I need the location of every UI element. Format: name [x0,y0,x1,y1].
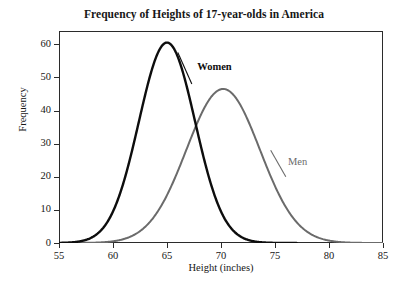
y-tick-mark [54,77,59,78]
x-tick-label: 85 [363,251,403,262]
x-tick-label: 75 [255,251,295,262]
y-tick-mark [54,210,59,211]
x-tick-label: 80 [309,251,349,262]
y-tick-label: 10 [13,204,51,215]
x-tick-mark [329,243,330,248]
y-tick-label: 20 [13,171,51,182]
series-label-women: Women [197,61,231,72]
y-tick-label: 0 [13,238,51,249]
series-label-men: Men [288,156,307,167]
chart-title: Frequency of Heights of 17-year-olds in … [0,8,408,20]
women-curve [59,43,297,243]
y-tick-mark [54,144,59,145]
men-leader-line [271,150,286,177]
x-tick-mark [221,243,222,248]
x-axis-title: Height (inches) [59,262,383,273]
x-tick-mark [59,243,60,248]
x-tick-mark [383,243,384,248]
x-tick-mark [167,243,168,248]
y-tick-mark [54,44,59,45]
y-tick-mark [54,111,59,112]
x-tick-label: 60 [93,251,133,262]
chart-page: Frequency of Heights of 17-year-olds in … [0,0,408,297]
y-axis-title: Frequency [17,70,28,150]
x-tick-mark [275,243,276,248]
y-tick-label: 60 [13,39,51,50]
y-tick-mark [54,177,59,178]
x-tick-mark [113,243,114,248]
x-tick-label: 70 [201,251,241,262]
x-tick-label: 65 [147,251,187,262]
x-tick-label: 55 [39,251,79,262]
